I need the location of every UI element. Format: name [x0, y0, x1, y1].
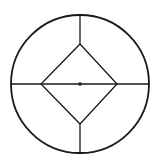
geometric-diagram: [0, 0, 154, 158]
center-dot: [78, 82, 82, 86]
